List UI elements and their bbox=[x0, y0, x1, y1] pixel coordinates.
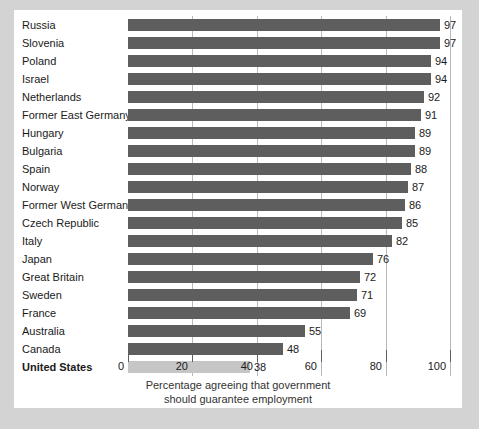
axis-tick bbox=[128, 350, 129, 362]
category-label: Japan bbox=[22, 250, 126, 268]
bar-row: Netherlands92 bbox=[14, 88, 462, 106]
category-label: Australia bbox=[22, 322, 126, 340]
category-label: Netherlands bbox=[22, 88, 126, 106]
bar-value-label: 71 bbox=[361, 286, 373, 304]
bar-value-label: 94 bbox=[435, 70, 447, 88]
axis-tick bbox=[257, 350, 258, 362]
caption-line-1: Percentage agreeing that government bbox=[14, 378, 462, 392]
category-label: Czech Republic bbox=[22, 214, 126, 232]
axis-tick-label: 100 bbox=[406, 360, 446, 372]
bar-row: Poland94 bbox=[14, 52, 462, 70]
bar-row: Russia97 bbox=[14, 16, 462, 34]
bar bbox=[128, 289, 357, 301]
bar-row: Spain88 bbox=[14, 160, 462, 178]
bar-value-label: 97 bbox=[444, 16, 456, 34]
category-label: Hungary bbox=[22, 124, 126, 142]
bar-row: Bulgaria89 bbox=[14, 142, 462, 160]
category-label: Sweden bbox=[22, 286, 126, 304]
bar bbox=[128, 55, 431, 67]
category-label: Russia bbox=[22, 16, 126, 34]
category-label: Former West Germany bbox=[22, 196, 126, 214]
bar bbox=[128, 217, 402, 229]
category-label: Poland bbox=[22, 52, 126, 70]
bar-value-label: 76 bbox=[377, 250, 389, 268]
bar-value-label: 94 bbox=[435, 52, 447, 70]
x-axis: 020406080100 bbox=[14, 350, 462, 376]
bar-row: Japan76 bbox=[14, 250, 462, 268]
axis-tick-label: 60 bbox=[277, 360, 317, 372]
bar-value-label: 69 bbox=[354, 304, 366, 322]
bar-row: Italy82 bbox=[14, 232, 462, 250]
bar-row: Hungary89 bbox=[14, 124, 462, 142]
bar-value-label: 85 bbox=[406, 214, 418, 232]
bar bbox=[128, 73, 431, 85]
bar bbox=[128, 127, 415, 139]
bar-value-label: 82 bbox=[396, 232, 408, 250]
axis-tick-label: 40 bbox=[213, 360, 253, 372]
bar-row: Australia55 bbox=[14, 322, 462, 340]
bar bbox=[128, 199, 405, 211]
bar-row: Former East Germany91 bbox=[14, 106, 462, 124]
bar-value-label: 72 bbox=[364, 268, 376, 286]
bar bbox=[128, 325, 305, 337]
bar-row: France69 bbox=[14, 304, 462, 322]
bar-row: Slovenia97 bbox=[14, 34, 462, 52]
category-label: Italy bbox=[22, 232, 126, 250]
category-label: Bulgaria bbox=[22, 142, 126, 160]
category-label: Israel bbox=[22, 70, 126, 88]
chart-plot-area: Russia97Slovenia97Poland94Israel94Nether… bbox=[14, 10, 462, 350]
category-label: Spain bbox=[22, 160, 126, 178]
bar bbox=[128, 145, 415, 157]
bar bbox=[128, 181, 408, 193]
category-label: France bbox=[22, 304, 126, 322]
axis-tick bbox=[386, 350, 387, 362]
category-label: Former East Germany bbox=[22, 106, 126, 124]
bar bbox=[128, 271, 360, 283]
axis-tick-label: 80 bbox=[342, 360, 382, 372]
bar-row: Former West Germany86 bbox=[14, 196, 462, 214]
bar-value-label: 55 bbox=[309, 322, 321, 340]
bar-value-label: 89 bbox=[419, 142, 431, 160]
category-label: Norway bbox=[22, 178, 126, 196]
figure-panel: Russia97Slovenia97Poland94Israel94Nether… bbox=[14, 10, 462, 408]
bar-value-label: 97 bbox=[444, 34, 456, 52]
bar-value-label: 92 bbox=[428, 88, 440, 106]
bar bbox=[128, 235, 392, 247]
bar bbox=[128, 109, 421, 121]
bar-value-label: 91 bbox=[425, 106, 437, 124]
bar-value-label: 87 bbox=[412, 178, 424, 196]
bar-row: Norway87 bbox=[14, 178, 462, 196]
bar-value-label: 88 bbox=[415, 160, 427, 178]
category-label: Slovenia bbox=[22, 34, 126, 52]
bar bbox=[128, 163, 411, 175]
axis-tick bbox=[450, 350, 451, 362]
bar-row: Great Britain72 bbox=[14, 268, 462, 286]
axis-tick bbox=[321, 350, 322, 362]
category-label: Great Britain bbox=[22, 268, 126, 286]
bar-row: Israel94 bbox=[14, 70, 462, 88]
caption-line-2: should guarantee employment bbox=[14, 392, 462, 406]
bar bbox=[128, 307, 350, 319]
bar-row: Czech Republic85 bbox=[14, 214, 462, 232]
axis-tick bbox=[192, 350, 193, 362]
axis-caption: Percentage agreeing that government shou… bbox=[14, 378, 462, 406]
bar bbox=[128, 37, 440, 49]
bar bbox=[128, 19, 440, 31]
bar-value-label: 89 bbox=[419, 124, 431, 142]
axis-tick-label: 20 bbox=[148, 360, 188, 372]
bar bbox=[128, 253, 373, 265]
bar bbox=[128, 91, 424, 103]
bar-value-label: 86 bbox=[409, 196, 421, 214]
axis-tick-label: 0 bbox=[84, 360, 124, 372]
bar-row: Sweden71 bbox=[14, 286, 462, 304]
